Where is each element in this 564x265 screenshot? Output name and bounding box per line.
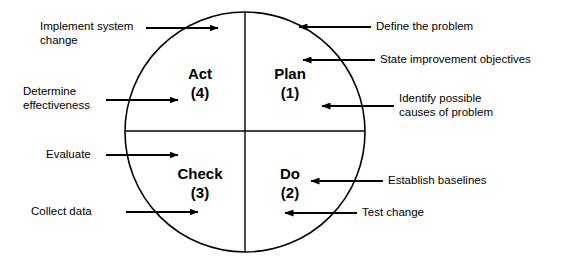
callout-implement-system-change: Implement system change (40, 20, 133, 47)
callout-collect-data: Collect data (31, 205, 92, 219)
callout-establish-baselines: Establish baselines (388, 174, 486, 188)
quadrant-label-do: Do (2) (250, 164, 330, 202)
quadrant-label-check: Check (3) (155, 164, 245, 202)
callout-evaluate: Evaluate (46, 148, 91, 162)
callout-identify-possible-causes: Identify possible causes of problem (399, 92, 493, 119)
callout-define-the-problem: Define the problem (376, 20, 473, 34)
quadrant-label-act: Act (4) (160, 64, 240, 102)
callout-state-improvement-objectives: State improvement objectives (380, 53, 531, 67)
pdca-cycle-diagram: Act (4) Plan (1) Check (3) Do (2) Implem… (0, 0, 564, 265)
callout-determine-effectiveness: Determine effectiveness (23, 85, 90, 112)
callout-test-change: Test change (362, 206, 424, 220)
quadrant-label-plan: Plan (1) (250, 64, 330, 102)
